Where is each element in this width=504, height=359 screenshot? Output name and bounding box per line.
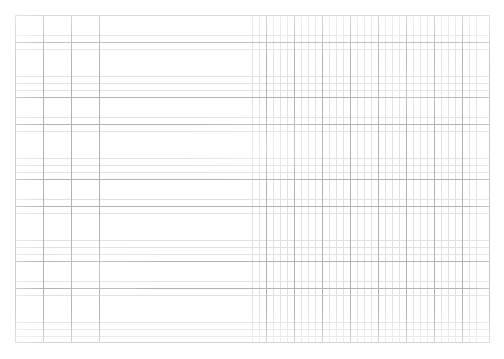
grid-major-lines [15, 15, 490, 343]
grid-border-bottom [15, 342, 490, 343]
grid-paper-sheet [15, 15, 490, 343]
grid-border-right [489, 15, 490, 343]
scanned-header-text [8, 1, 268, 10]
page-root [0, 0, 504, 359]
